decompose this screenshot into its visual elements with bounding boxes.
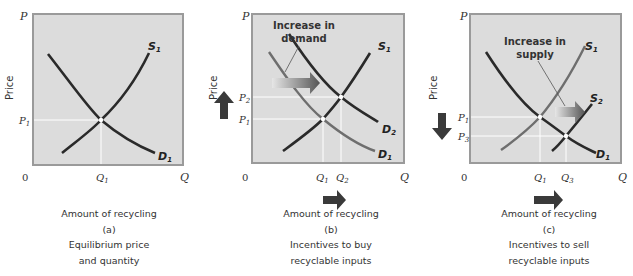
panel-letter: (c) [459,222,633,238]
x-axis-letter: Q [180,171,189,184]
annotation-line-2: supply [516,49,554,60]
equilibrium-point-e1 [321,117,325,121]
quantity-tick-q3: Q3 [561,172,574,185]
y-axis-label: Price [4,76,15,100]
panel-a: P Q 0 Price S1 D1 P1 Q1 [4,10,189,185]
x-axis-letter: Q [400,171,409,184]
panel-title-line-2: recyclable inputs [459,253,633,269]
origin-label: 0 [22,172,28,183]
caption-a: Amount of recycling (a) Equilibrium pric… [19,206,199,268]
quantity-tick-q2: Q2 [336,172,349,185]
equilibrium-point [99,118,103,122]
price-tick-p1: P1 [18,115,30,128]
price-tick-p1: P1 [457,112,469,125]
caption-c: Amount of recycling (c) Incentives to se… [459,206,633,268]
y-axis-letter: P [19,10,28,23]
plot-area [252,14,404,163]
panel-title-line-1: Equilibrium price [19,237,199,253]
y-axis-letter: P [241,10,250,23]
panel-title-line-1: Incentives to buy [241,237,421,253]
equilibrium-point-e2 [339,95,343,99]
annotation-line-2: demand [281,33,326,44]
price-tick-p3: P3 [457,131,470,144]
annotation-line-1: Increase in [273,20,335,31]
annotation-line-1: Increase in [504,36,566,47]
origin-label: 0 [242,172,248,183]
panel-title-line-2: recyclable inputs [241,253,421,269]
quantity-tick-q1: Q1 [316,172,329,185]
x-axis-title: Amount of recycling [19,206,199,222]
price-tick-p2: P2 [238,92,251,105]
plot-area [33,14,183,165]
price-tick-p1: P1 [238,114,250,127]
x-axis-title: Amount of recycling [241,206,421,222]
y-axis-label: Price [428,76,439,100]
panel-b: P Q 0 Price Increase in demand S1 D2 D1 … [208,10,409,210]
equilibrium-point-e1 [538,115,542,119]
panel-title-line-1: Incentives to sell [459,237,633,253]
price-down-arrow-icon [432,113,452,140]
caption-b: Amount of recycling (b) Incentives to bu… [241,206,421,268]
panel-c: P Q 0 Price Increase in supply S1 S2 D1 … [428,10,627,210]
y-axis-letter: P [459,10,468,23]
x-axis-letter: Q [618,171,627,184]
x-axis-title: Amount of recycling [459,206,633,222]
panel-title-line-2: and quantity [19,253,199,269]
panel-letter: (b) [241,222,421,238]
quantity-tick-q1: Q1 [534,172,547,185]
equilibrium-point-e3 [564,134,568,138]
origin-label: 0 [461,172,467,183]
y-axis-label: Price [208,76,219,100]
quantity-tick-q1: Q1 [96,172,109,185]
panel-letter: (a) [19,222,199,238]
